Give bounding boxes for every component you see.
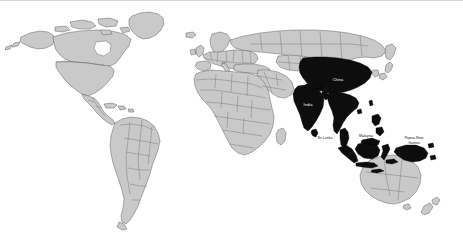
label-china: China [333,77,344,82]
highlight-mainland-southeast-asia [327,92,359,134]
label-papua-new-guinea-line2: Guinea [408,141,420,145]
highlight-png-islands [428,143,436,160]
highlighted-countries [293,57,436,173]
land-new-zealand [421,197,440,215]
land-korea [372,70,379,77]
land-south-america [110,117,160,224]
land-greenland [129,12,164,39]
land-africa [194,70,274,155]
label-india: India [304,102,314,107]
land-iberia [195,61,211,71]
label-sri-lanka: Sri Lanka [317,136,332,140]
land-mexico-central-america [82,94,115,125]
label-malaysia: Malaysia [359,134,373,138]
land-iceland [186,32,196,38]
land-usa [56,61,114,96]
land-caribbean [104,103,134,112]
land-alaska [5,31,55,50]
highlight-india [293,85,324,131]
land-british-isles [190,45,204,57]
label-papua-new-guinea-line1: Papua New [405,136,424,140]
world-map-svg: China India Sri Lanka Malaysia Papua New… [0,0,463,243]
land-japan [379,62,393,80]
land-scandinavia [210,32,230,53]
land-tasmania [403,204,411,210]
world-map-figure: China India Sri Lanka Malaysia Papua New… [0,0,463,243]
land-madagascar [276,128,286,145]
highlight-taiwan [357,100,373,114]
highlight-malay-peninsula [340,128,349,148]
highlight-philippines [372,114,384,136]
land-kamchatka [385,44,396,60]
highlight-sumatra [338,145,358,163]
